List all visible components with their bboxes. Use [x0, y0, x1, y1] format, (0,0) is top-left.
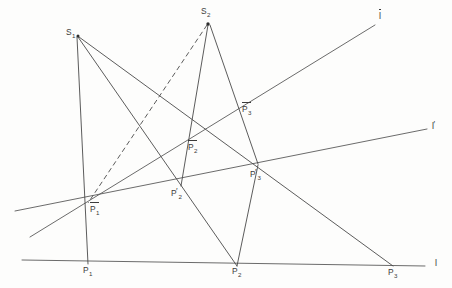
label-line-l-prime: l′	[432, 122, 436, 131]
label-line-l-bar: l	[379, 12, 381, 21]
ray-p3-prime-to-p2	[237, 165, 258, 266]
label-point-p2-bar: P2	[188, 143, 197, 151]
geometry-canvas	[0, 0, 452, 288]
label-point-p1-bar: P1	[90, 205, 99, 213]
line-l-prime	[15, 129, 427, 211]
label-point-p3: P3	[388, 268, 397, 276]
label-s1: S1	[66, 28, 75, 36]
vertex-dot-s1	[77, 35, 80, 38]
ray-s1-to-p2	[78, 37, 237, 266]
ray-s1-to-p1	[77, 37, 88, 264]
geometry-figure: S1 S2 l l′ l P1 P2 P3 P1 P′2 P′3 P2 P3	[0, 0, 452, 288]
label-point-p3-prime: P′3	[250, 170, 261, 178]
label-s2: S2	[201, 7, 210, 15]
vertex-dot-s2	[206, 22, 209, 25]
label-point-p3-bar: P3	[242, 105, 251, 113]
label-point-p2: P2	[232, 267, 241, 275]
label-line-l: l	[435, 259, 437, 268]
ray-s2-to-p2-prime	[181, 25, 208, 186]
label-point-p1: P1	[83, 266, 92, 274]
label-point-p2-prime: P′2	[171, 189, 182, 197]
ray-s1-to-p3	[79, 37, 393, 266]
ray-s2-to-p3-prime	[210, 25, 258, 164]
